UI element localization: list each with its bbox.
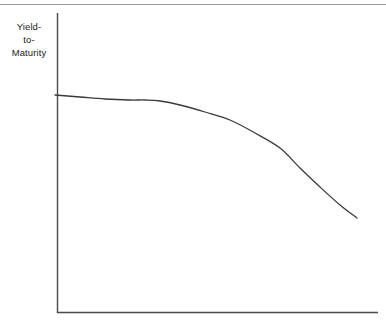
yield-curve-line: [55, 95, 357, 218]
chart-plot-area: [0, 0, 386, 321]
chart-figure: Yield- to- Maturity: [0, 0, 386, 321]
